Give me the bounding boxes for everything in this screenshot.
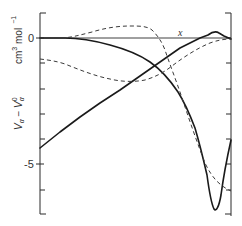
y-axis-label: Vα − Vα0	[11, 96, 25, 130]
chart: 0 -5 x Vα − Vα0 cm3 mol−1	[0, 0, 242, 226]
y-tick-label-minus-5: -5	[24, 158, 34, 170]
svg-text:Vα − Vα0: Vα − Vα0	[11, 96, 25, 130]
right-axis	[225, 13, 231, 216]
y-tick-label-0: 0	[28, 32, 34, 44]
series-solid-rising	[40, 32, 231, 148]
x-axis-annotation: x	[177, 27, 183, 38]
svg-text:cm3 mol−1: cm3 mol−1	[10, 16, 24, 64]
series-solid-falling	[40, 38, 231, 210]
series-dashed-lower	[40, 39, 231, 81]
series-dashed-upper	[40, 26, 231, 191]
y-axis-units: cm3 mol−1	[10, 16, 24, 64]
left-axis	[36, 13, 46, 214]
